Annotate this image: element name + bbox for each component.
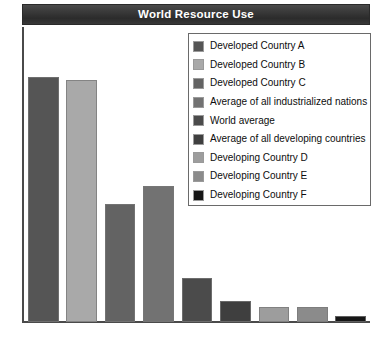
legend-swatch-icon bbox=[193, 190, 204, 201]
legend-item: Developing Country F bbox=[193, 186, 370, 205]
chart-title-bar: World Resource Use bbox=[22, 4, 370, 25]
legend-item-label: Developed Country C bbox=[210, 78, 306, 88]
legend-item: Developing Country D bbox=[193, 149, 370, 168]
legend-swatch-icon bbox=[193, 78, 204, 89]
legend-item: World average bbox=[193, 111, 370, 130]
bar-5 bbox=[182, 278, 213, 322]
legend-item-label: Average of all industrialized nations bbox=[210, 97, 367, 107]
legend-swatch-icon bbox=[193, 171, 204, 182]
bar-1 bbox=[28, 77, 59, 322]
chart-legend: Developed Country ADeveloped Country BDe… bbox=[188, 33, 371, 206]
legend-item: Developing Country E bbox=[193, 167, 370, 186]
bar-2 bbox=[66, 80, 97, 322]
legend-item-label: Developing Country E bbox=[210, 171, 307, 181]
legend-swatch-icon bbox=[193, 97, 204, 108]
bar-9 bbox=[335, 316, 366, 322]
legend-swatch-icon bbox=[193, 115, 204, 126]
legend-swatch-icon bbox=[193, 152, 204, 163]
legend-item-label: Developed Country A bbox=[210, 41, 305, 51]
legend-swatch-icon bbox=[193, 134, 204, 145]
legend-item: Developed Country C bbox=[193, 74, 370, 93]
legend-item: Average of all developing countries bbox=[193, 130, 370, 149]
legend-item: Average of all industrialized nations bbox=[193, 93, 370, 112]
bar-7 bbox=[259, 307, 290, 322]
legend-item-label: Average of all developing countries bbox=[210, 134, 365, 144]
page-title: World Resource Use bbox=[138, 9, 254, 21]
bar-8 bbox=[297, 307, 328, 322]
bar-6 bbox=[220, 301, 251, 322]
legend-swatch-icon bbox=[193, 59, 204, 70]
legend-item-label: World average bbox=[210, 116, 275, 126]
legend-item-label: Developing Country D bbox=[210, 153, 308, 163]
legend-swatch-icon bbox=[193, 41, 204, 52]
legend-item: Developed Country B bbox=[193, 56, 370, 75]
bar-3 bbox=[105, 204, 136, 322]
bar-4 bbox=[143, 186, 174, 322]
chart-figure: World Resource Use Relative natural reso… bbox=[0, 0, 378, 338]
legend-item: Developed Country A bbox=[193, 37, 370, 56]
legend-item-label: Developed Country B bbox=[210, 60, 305, 70]
legend-item-label: Developing Country F bbox=[210, 190, 307, 200]
